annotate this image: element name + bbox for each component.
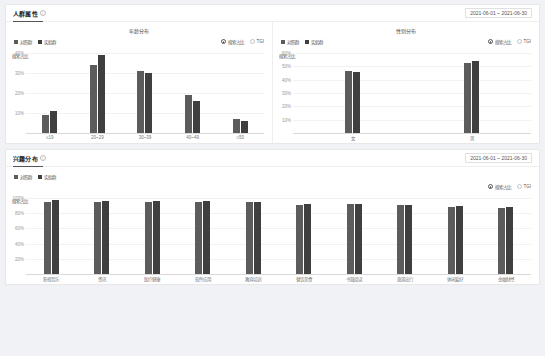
chart-interest-distribution: 搜索占比 100% 80% 60% 40% 20% <box>6 198 539 282</box>
bar-control[interactable] <box>464 63 471 133</box>
y-tick-label: 30% <box>15 71 24 76</box>
legend-swatch-icon <box>14 40 18 44</box>
legend-item[interactable]: 对照群 <box>14 39 32 45</box>
y-tick-label: 10% <box>282 117 291 122</box>
legend-item[interactable]: 对照群 <box>14 174 32 180</box>
bar-experiment[interactable] <box>355 204 362 274</box>
bar-experiment[interactable] <box>506 207 513 274</box>
radio-icon-selected[interactable] <box>221 39 226 44</box>
bar-control[interactable] <box>90 65 97 133</box>
legend-swatch-icon <box>38 40 42 44</box>
legend-item[interactable]: 实验群 <box>305 39 323 45</box>
bar-experiment[interactable] <box>241 121 248 133</box>
bar-experiment[interactable] <box>50 111 57 133</box>
legend-swatch-icon <box>38 175 42 179</box>
y-tick-label: 60% <box>15 226 24 231</box>
y-tick-label: 20% <box>15 91 24 96</box>
legend-label: 对照群 <box>20 39 32 45</box>
x-tick-label: 金融财经 <box>481 274 532 282</box>
bar-experiment[interactable] <box>203 201 210 274</box>
radio-tgi-age[interactable]: TGI <box>250 39 265 44</box>
radio-search-share-interests[interactable]: 搜索占比 <box>488 184 511 190</box>
bar-experiment[interactable] <box>353 72 360 133</box>
radio-icon-selected[interactable] <box>488 39 493 44</box>
bar-experiment[interactable] <box>254 202 261 274</box>
bar-control[interactable] <box>137 71 144 133</box>
bar-control[interactable] <box>246 202 253 274</box>
y-tick-label: 100% <box>12 196 24 201</box>
chart-title-gender: 性别分布 <box>273 27 539 34</box>
bar-control[interactable] <box>345 71 352 133</box>
panel-interest-distribution: 对照群 实验群 搜索占比 TGI <box>6 167 539 284</box>
bar-control[interactable] <box>498 208 505 274</box>
bar-control[interactable] <box>44 202 51 274</box>
bar-control[interactable] <box>42 115 49 133</box>
bar-experiment[interactable] <box>405 205 412 274</box>
bar-experiment[interactable] <box>193 101 200 133</box>
bar-control[interactable] <box>296 205 303 274</box>
y-tick-label: 40% <box>15 51 24 56</box>
legend-label: 对照群 <box>20 174 32 180</box>
bar-group <box>169 53 217 133</box>
radio-search-share-gender[interactable]: 搜索占比 <box>488 39 511 45</box>
radio-tgi-interests[interactable]: TGI <box>517 184 532 189</box>
bar-control[interactable] <box>185 95 192 133</box>
legend-item[interactable]: 实验群 <box>38 39 56 45</box>
y-tick-label: 80% <box>15 211 24 216</box>
radio-group-interests: 搜索占比 TGI <box>488 184 532 190</box>
bar-control[interactable] <box>233 119 240 133</box>
radio-label: TGI <box>524 39 532 44</box>
x-axis-age: ≤19 20~29 30~39 40~49 ≥50 <box>26 133 264 140</box>
x-tick-label: ≤19 <box>26 133 74 140</box>
radio-icon[interactable] <box>250 39 255 44</box>
legend-swatch-icon <box>281 40 285 44</box>
bar-group <box>127 198 178 274</box>
info-icon[interactable]: i <box>40 155 46 161</box>
controls-gender: 对照群 实验群 搜索占比 <box>273 37 539 46</box>
bar-control[interactable] <box>145 202 152 274</box>
bar-experiment[interactable] <box>102 201 109 274</box>
bar-experiment[interactable] <box>456 206 463 274</box>
info-icon[interactable]: i <box>40 10 46 16</box>
legend-label: 对照群 <box>287 39 299 45</box>
card-demographics: 人群属性 i 2021-06-01 ~ 2021-06-30 年龄分布 对照群 <box>5 4 540 144</box>
x-tick-label: 软件应用 <box>178 274 229 282</box>
controls-age: 对照群 实验群 搜索占比 <box>6 37 272 46</box>
chart-title-age: 年龄分布 <box>6 27 272 34</box>
bar-experiment[interactable] <box>472 61 479 133</box>
radio-label: 搜索占比 <box>228 39 244 45</box>
bar-experiment[interactable] <box>153 201 160 274</box>
x-tick-label: 旅游出行 <box>380 274 431 282</box>
legend-item[interactable]: 对照群 <box>281 39 299 45</box>
x-tick-label: 女 <box>293 133 412 141</box>
bar-group <box>228 198 279 274</box>
bar-series-gender <box>293 53 531 133</box>
card-header-interests: 兴趣分布 i 2021-06-01 ~ 2021-06-30 <box>6 150 539 167</box>
bar-control[interactable] <box>94 202 101 274</box>
legend-label: 实验群 <box>311 39 323 45</box>
bar-experiment[interactable] <box>98 55 105 133</box>
bar-control[interactable] <box>347 204 354 274</box>
legend-item[interactable]: 实验群 <box>38 174 56 180</box>
radio-label: 搜索占比 <box>495 184 511 190</box>
bar-experiment[interactable] <box>304 204 311 274</box>
legend-label: 实验群 <box>44 174 56 180</box>
bar-group <box>481 198 532 274</box>
bar-control[interactable] <box>448 207 455 274</box>
bar-experiment[interactable] <box>145 73 152 133</box>
bar-control[interactable] <box>397 205 404 274</box>
y-tick-label: 60% <box>282 51 291 56</box>
x-tick-label: 书籍阅读 <box>329 274 380 282</box>
radio-search-share-age[interactable]: 搜索占比 <box>221 39 244 45</box>
radio-icon[interactable] <box>517 184 522 189</box>
bar-experiment[interactable] <box>52 200 59 274</box>
date-range-picker-interests[interactable]: 2021-06-01 ~ 2021-06-30 <box>465 153 532 163</box>
y-tick-label: 30% <box>282 91 291 96</box>
bar-group <box>293 53 412 133</box>
date-range-picker-demographics[interactable]: 2021-06-01 ~ 2021-06-30 <box>465 8 532 18</box>
radio-tgi-gender[interactable]: TGI <box>517 39 532 44</box>
radio-icon[interactable] <box>517 39 522 44</box>
plot-area-age: 40% 30% 20% 10% <box>26 53 264 133</box>
radio-icon-selected[interactable] <box>488 184 493 189</box>
bar-control[interactable] <box>195 202 202 274</box>
